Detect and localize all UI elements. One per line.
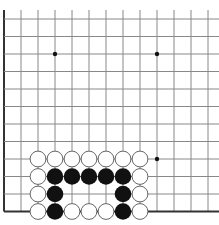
star-point [155,52,159,56]
black-stone[interactable] [81,168,98,185]
white-stone[interactable] [81,151,97,167]
white-stone[interactable] [132,169,148,185]
white-stone[interactable] [81,204,97,220]
white-stone[interactable] [30,204,46,220]
white-stone[interactable] [64,204,80,220]
go-board[interactable] [0,0,219,225]
black-stone[interactable] [47,203,64,220]
black-stone[interactable] [98,168,115,185]
white-stone[interactable] [47,151,63,167]
white-stone[interactable] [30,151,46,167]
star-point [155,157,159,161]
white-stone[interactable] [98,204,114,220]
white-stone[interactable] [132,204,148,220]
black-stone[interactable] [115,168,132,185]
black-stone[interactable] [47,186,64,203]
black-stone[interactable] [115,203,132,220]
white-stone[interactable] [64,151,80,167]
white-stone[interactable] [132,151,148,167]
white-stone[interactable] [30,186,46,202]
white-stone[interactable] [98,151,114,167]
black-stone[interactable] [64,168,81,185]
star-point [53,52,57,56]
black-stone[interactable] [115,186,132,203]
black-stone[interactable] [47,168,64,185]
white-stone[interactable] [30,169,46,185]
white-stone[interactable] [115,151,131,167]
white-stone[interactable] [132,186,148,202]
